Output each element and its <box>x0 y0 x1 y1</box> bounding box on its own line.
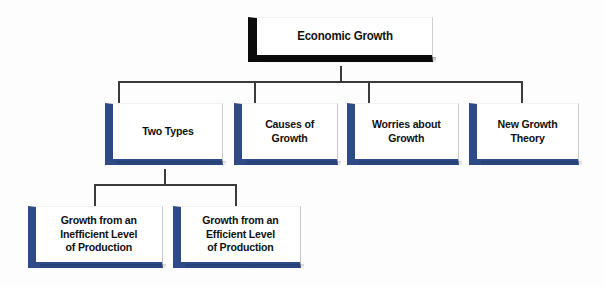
node-label: Worries about Growth <box>372 118 441 145</box>
node-label: Two Types <box>142 125 193 139</box>
connector-drop-new-growth-theory <box>521 81 523 103</box>
node-two-types[interactable]: Two Types <box>105 103 223 165</box>
node-causes-of-growth[interactable]: Causes of Growth <box>234 103 338 165</box>
connector-drop-efficient-level <box>235 184 237 206</box>
node-label: Economic Growth <box>297 29 393 44</box>
node-new-growth-theory[interactable]: New Growth Theory <box>469 103 579 165</box>
node-worries-about-growth[interactable]: Worries about Growth <box>347 103 459 165</box>
connector-level2-bus <box>118 81 522 83</box>
node-growth-from-efficient-level-of-production[interactable]: Growth from an Efficient Level of Produc… <box>173 206 301 268</box>
connector-drop-inefficient-level <box>94 184 96 206</box>
connector-root-stem <box>340 66 342 82</box>
connector-drop-causes-of-growth <box>254 81 256 103</box>
node-growth-from-inefficient-level-of-production[interactable]: Growth from an Inefficient Level of Prod… <box>28 206 163 268</box>
diagram-canvas: Economic Growth Two Types Causes of Grow… <box>0 0 604 287</box>
connector-drop-two-types <box>118 81 120 103</box>
node-label: Growth from an Efficient Level of Produc… <box>202 214 278 255</box>
node-label: New Growth Theory <box>498 118 558 145</box>
node-economic-growth[interactable]: Economic Growth <box>248 17 433 62</box>
connector-drop-worries-about-growth <box>368 81 370 103</box>
node-label: Growth from an Inefficient Level of Prod… <box>61 214 138 255</box>
connector-level3-bus <box>94 184 237 186</box>
node-label: Causes of Growth <box>265 118 314 145</box>
connector-two-types-stem <box>164 169 166 185</box>
